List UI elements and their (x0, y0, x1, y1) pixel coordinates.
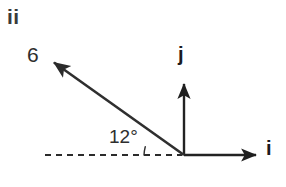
vector-diagram: ii 6 12° j i (0, 0, 286, 187)
part-label: ii (7, 6, 20, 27)
angle-arc (144, 147, 145, 155)
vector-magnitude-label: 6 (27, 44, 39, 65)
i-axis-label: i (266, 138, 272, 158)
angle-label: 12° (109, 127, 138, 146)
j-axis-label: j (178, 44, 184, 64)
diagram-canvas (0, 0, 286, 187)
